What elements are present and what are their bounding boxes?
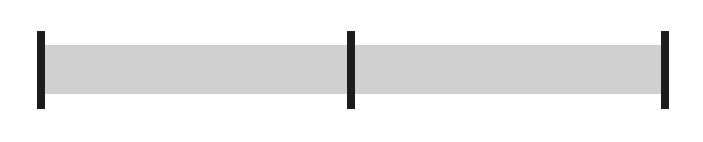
strum-pattern (0, 0, 703, 142)
